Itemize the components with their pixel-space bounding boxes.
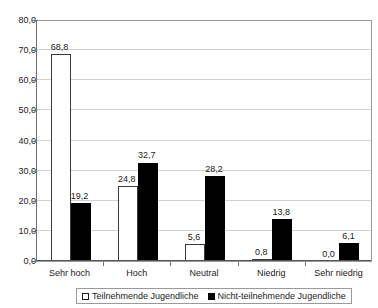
bar-value-label: 6,1	[330, 232, 366, 241]
bar	[185, 244, 205, 261]
y-axis-tick-mark	[32, 110, 36, 111]
plot-area	[36, 20, 372, 262]
gridline	[37, 109, 371, 110]
y-axis-tick-label: 70,0	[0, 46, 36, 55]
y-axis-tick-mark	[32, 201, 36, 202]
y-axis-tick-label: 10,0	[0, 227, 36, 236]
x-axis-category-label: Hoch	[103, 268, 170, 279]
x-axis-category-label: Sehr hoch	[36, 268, 103, 279]
y-axis-tick-mark	[32, 231, 36, 232]
bar-value-label: 0,0	[310, 250, 346, 259]
bar-value-label: 68,8	[42, 43, 78, 52]
bar	[118, 186, 138, 261]
y-axis-tick-label: 30,0	[0, 167, 36, 176]
x-axis-category-label: Niedrig	[238, 268, 305, 279]
y-axis-tick-mark	[32, 50, 36, 51]
bar	[51, 54, 71, 261]
y-axis-tick-label: 60,0	[0, 76, 36, 85]
bar-value-label: 28,2	[196, 165, 232, 174]
gridline	[37, 49, 371, 50]
y-axis-tick-label: 40,0	[0, 137, 36, 146]
y-axis-tick-label: 20,0	[0, 197, 36, 206]
y-axis-tick-mark	[32, 171, 36, 172]
bar-value-label: 32,7	[129, 151, 165, 160]
gridline	[37, 79, 371, 80]
y-axis-tick-mark	[32, 261, 36, 262]
bar-value-label: 24,8	[109, 175, 145, 184]
x-axis-category-label: Neutral	[170, 268, 237, 279]
bar	[71, 203, 91, 261]
legend-swatch-filled-square-icon	[208, 293, 215, 300]
legend-label: Nicht-teilnehmende Jugendliche	[218, 292, 346, 301]
y-axis-tick-mark	[32, 141, 36, 142]
bar-chart: 0,010,020,030,040,050,060,070,080,0 Sehr…	[0, 0, 378, 308]
y-axis-tick-mark	[32, 80, 36, 81]
bar-value-label: 5,6	[176, 233, 212, 242]
x-axis-tick-mark	[305, 262, 306, 266]
x-axis-category-label: Sehr niedrig	[305, 268, 372, 279]
bar-value-label: 0,8	[243, 248, 279, 257]
y-axis-tick-label: 80,0	[0, 16, 36, 25]
gridline	[37, 140, 371, 141]
axis-baseline	[37, 260, 371, 261]
legend-label: Teilnehmende Jugendliche	[92, 292, 199, 301]
y-axis-tick-label: 0,0	[0, 257, 36, 266]
y-axis-tick-mark	[32, 20, 36, 21]
y-axis-tick-label: 50,0	[0, 106, 36, 115]
legend-entry-nicht-teilnehmende: Nicht-teilnehmende Jugendliche	[208, 292, 346, 301]
bar-value-label: 19,2	[62, 192, 98, 201]
x-axis-tick-mark	[103, 262, 104, 266]
x-axis-tick-mark	[170, 262, 171, 266]
legend-entry-teilnehmende: Teilnehmende Jugendliche	[82, 292, 199, 301]
bar	[205, 176, 225, 261]
y-axis-line	[36, 20, 37, 262]
chart-legend: Teilnehmende Jugendliche Nicht-teilnehme…	[76, 288, 352, 304]
x-axis-tick-mark	[238, 262, 239, 266]
legend-swatch-hollow-square-icon	[82, 293, 89, 300]
bar-value-label: 13,8	[263, 208, 299, 217]
